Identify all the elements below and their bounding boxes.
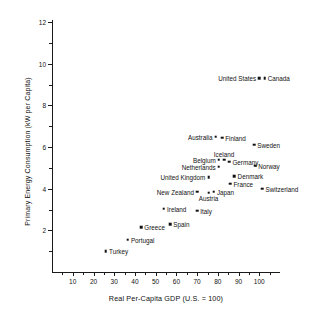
- scatter-plot-figure: 102030405060708090100 24681012 United St…: [0, 0, 330, 319]
- data-point-label: United States: [218, 75, 256, 82]
- x-tick-minor: [187, 272, 188, 275]
- x-tick: [135, 272, 136, 276]
- data-point-label: New Zealand: [157, 188, 194, 195]
- data-point: [228, 160, 231, 163]
- y-tick-minor: [49, 251, 52, 252]
- x-tick: [73, 272, 74, 276]
- x-tick-label: 20: [90, 278, 97, 285]
- data-point-label: France: [234, 180, 254, 187]
- x-tick-minor: [83, 272, 84, 275]
- y-tick-label: 12: [39, 19, 46, 26]
- data-point: [253, 144, 256, 147]
- x-tick-label: 60: [173, 278, 180, 285]
- data-point: [207, 192, 210, 195]
- x-tick-minor: [270, 272, 271, 275]
- y-tick: [48, 22, 52, 23]
- data-point: [207, 176, 210, 179]
- data-point: [221, 136, 224, 139]
- x-tick-minor: [104, 272, 105, 275]
- data-point-label: Canada: [268, 75, 290, 82]
- data-point-label: Denmark: [238, 173, 264, 180]
- data-point-label: Iceland: [214, 151, 234, 158]
- data-point: [126, 238, 129, 241]
- y-axis-label: Primary Energy Consumption (kW per Capit…: [24, 37, 31, 267]
- x-tick-label: 70: [193, 278, 200, 285]
- data-point: [261, 187, 264, 190]
- data-point-label: Sweden: [257, 141, 280, 148]
- y-tick-label: 2: [42, 227, 46, 234]
- data-point-label: Portugal: [131, 236, 154, 243]
- x-tick-minor: [208, 272, 209, 275]
- data-point-label: Netherlands: [182, 163, 216, 170]
- y-tick-label: 10: [39, 60, 46, 67]
- y-tick-minor: [49, 210, 52, 211]
- x-tick-label: 100: [254, 278, 265, 285]
- data-point: [223, 158, 226, 161]
- data-point-label: Ireland: [167, 205, 186, 212]
- data-point: [258, 77, 261, 80]
- y-tick-label: 4: [42, 185, 46, 192]
- y-tick-minor: [49, 85, 52, 86]
- data-point: [163, 207, 166, 210]
- data-point: [218, 166, 221, 169]
- data-point: [140, 226, 143, 229]
- data-point: [196, 191, 199, 194]
- data-point-label: Greece: [144, 224, 165, 231]
- data-point-label: Japan: [217, 188, 234, 195]
- x-tick-label: 30: [111, 278, 118, 285]
- y-tick: [48, 189, 52, 190]
- data-point: [214, 135, 217, 138]
- x-tick: [176, 272, 177, 276]
- y-tick: [48, 230, 52, 231]
- x-tick-label: 80: [214, 278, 221, 285]
- x-tick: [114, 272, 115, 276]
- x-tick-minor: [62, 272, 63, 275]
- y-tick: [48, 105, 52, 106]
- y-tick-label: 8: [42, 102, 46, 109]
- data-point: [254, 165, 257, 168]
- x-tick: [259, 272, 260, 276]
- x-tick-minor: [145, 272, 146, 275]
- data-point: [169, 223, 172, 226]
- data-point-label: Australia: [188, 133, 213, 140]
- x-tick: [218, 272, 219, 276]
- data-point-label: Spain: [173, 221, 189, 228]
- data-point-label: Italy: [200, 207, 212, 214]
- x-tick-label: 10: [69, 278, 76, 285]
- y-tick-minor: [49, 168, 52, 169]
- data-point-label: Switzerland: [266, 185, 299, 192]
- data-point: [229, 182, 232, 185]
- data-point-label: Turkey: [109, 248, 128, 255]
- y-tick-label: 6: [42, 144, 46, 151]
- y-tick: [48, 64, 52, 65]
- x-tick: [94, 272, 95, 276]
- data-point: [263, 77, 266, 80]
- y-tick-minor: [49, 126, 52, 127]
- y-tick-minor: [49, 43, 52, 44]
- data-point-label: Finland: [225, 134, 246, 141]
- x-axis-label: Real Per-Capita GDP (U.S. = 100): [52, 294, 280, 303]
- x-tick-minor: [249, 272, 250, 275]
- x-tick: [197, 272, 198, 276]
- y-axis-line: [52, 20, 53, 272]
- data-point: [233, 175, 236, 178]
- x-tick-minor: [228, 272, 229, 275]
- x-tick-label: 90: [235, 278, 242, 285]
- x-tick-minor: [166, 272, 167, 275]
- data-point-label: Belgium: [193, 156, 216, 163]
- data-point: [218, 158, 221, 161]
- data-point: [196, 209, 199, 212]
- data-point-label: Norway: [258, 162, 279, 169]
- data-point: [212, 191, 215, 194]
- data-point-label: United Kingdom: [160, 174, 205, 181]
- x-tick-label: 50: [152, 278, 159, 285]
- x-tick: [239, 272, 240, 276]
- y-tick: [48, 147, 52, 148]
- x-tick: [156, 272, 157, 276]
- data-point-label: Austria: [199, 195, 219, 202]
- x-tick-label: 40: [131, 278, 138, 285]
- data-point: [105, 250, 108, 253]
- x-tick-minor: [125, 272, 126, 275]
